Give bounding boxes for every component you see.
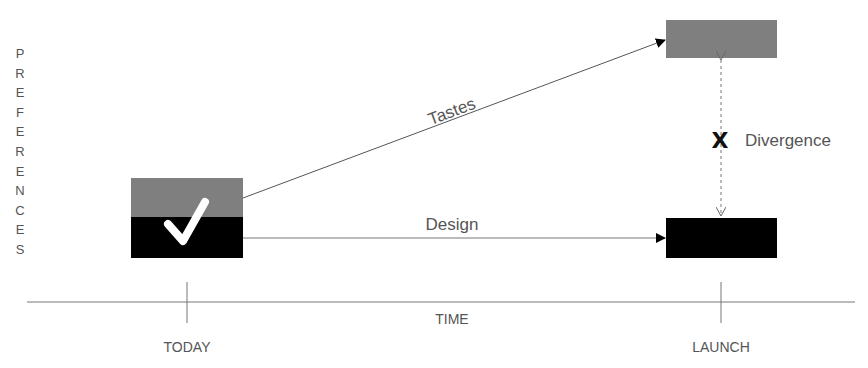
- today-tastes-box: [131, 178, 243, 218]
- launch-design-box: [666, 218, 777, 258]
- divergence-label: Divergence: [745, 131, 831, 150]
- divergence-x-icon: X: [712, 128, 729, 153]
- time-axis-label: TIME: [435, 311, 468, 327]
- design-label: Design: [426, 215, 479, 234]
- launch-tastes-box: [666, 20, 777, 58]
- diagram-canvas: TIME TODAY LAUNCH Tastes Design X Diverg…: [0, 0, 868, 368]
- tastes-label: Tastes: [425, 94, 478, 129]
- today-label: TODAY: [164, 339, 212, 355]
- launch-label: LAUNCH: [692, 339, 750, 355]
